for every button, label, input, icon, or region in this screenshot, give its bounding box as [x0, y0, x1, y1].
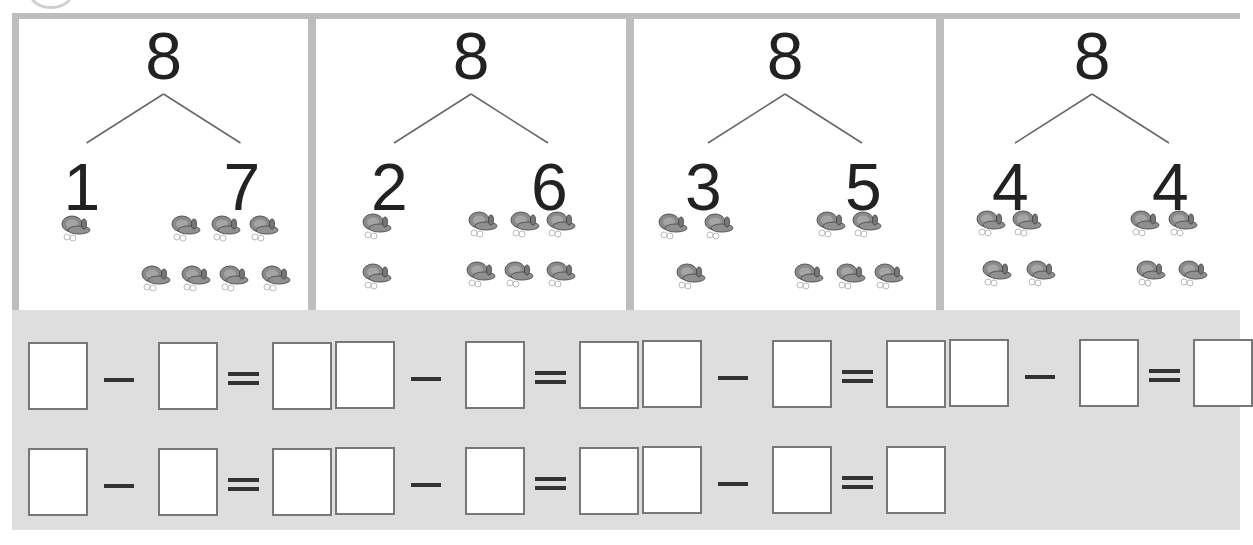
butterfly-icon	[508, 209, 542, 239]
answer-box[interactable]	[158, 342, 218, 410]
answer-box[interactable]	[886, 340, 946, 408]
minus-sign	[104, 378, 134, 382]
equation-area	[12, 310, 1240, 530]
butterfly-icon	[217, 263, 251, 293]
butterfly-icon	[656, 211, 690, 241]
minus-sign	[718, 376, 748, 380]
answer-box[interactable]	[1193, 339, 1253, 407]
answer-box[interactable]	[158, 448, 218, 516]
butterfly-icon	[169, 213, 203, 243]
answer-box[interactable]	[335, 447, 395, 515]
butterfly-icon	[179, 263, 213, 293]
answer-box[interactable]	[465, 341, 525, 409]
left-part-number: 1	[64, 154, 101, 220]
corner-decoration	[30, 0, 72, 9]
equals-sign	[228, 372, 259, 385]
answer-box[interactable]	[28, 448, 88, 516]
butterfly-icon	[814, 209, 848, 239]
butterfly-icon	[792, 261, 826, 291]
equals-sign	[842, 370, 873, 383]
minus-sign	[411, 483, 441, 487]
butterfly-icon	[1010, 208, 1044, 238]
number-bond-panel: 817	[19, 19, 308, 310]
number-bond-panels: 817826835844	[12, 13, 1240, 310]
butterfly-icon	[360, 211, 394, 241]
equals-sign	[842, 476, 873, 489]
butterfly-icon	[850, 209, 884, 239]
answer-box[interactable]	[1079, 339, 1139, 407]
butterfly-icon	[1166, 208, 1200, 238]
butterfly-icon	[59, 213, 93, 243]
answer-box[interactable]	[28, 342, 88, 410]
butterfly-icon	[1134, 258, 1168, 288]
butterfly-icon	[139, 263, 173, 293]
answer-box[interactable]	[272, 342, 332, 410]
butterfly-icon	[247, 213, 281, 243]
butterfly-icon	[1128, 208, 1162, 238]
number-bond-panel: 835	[634, 19, 936, 310]
equals-sign	[228, 478, 259, 491]
butterfly-icon	[674, 261, 708, 291]
answer-box[interactable]	[886, 446, 946, 514]
answer-box[interactable]	[272, 448, 332, 516]
number-bond-panel: 844	[944, 19, 1240, 310]
minus-sign	[718, 482, 748, 486]
butterfly-icon	[259, 263, 293, 293]
bond-lines	[19, 19, 308, 159]
butterfly-icon	[464, 259, 498, 289]
butterfly-icon	[544, 259, 578, 289]
bond-lines	[944, 19, 1240, 159]
bond-lines	[316, 19, 626, 159]
butterfly-icon	[209, 213, 243, 243]
butterfly-icon	[1176, 258, 1210, 288]
answer-box[interactable]	[949, 339, 1009, 407]
right-part-number: 7	[224, 154, 261, 220]
answer-box[interactable]	[772, 340, 832, 408]
butterfly-icon	[466, 209, 500, 239]
butterfly-icon	[544, 209, 578, 239]
answer-box[interactable]	[579, 447, 639, 515]
minus-sign	[411, 377, 441, 381]
butterfly-icon	[980, 258, 1014, 288]
butterfly-icon	[872, 261, 906, 291]
number-bond-panel: 826	[316, 19, 626, 310]
butterfly-icon	[502, 259, 536, 289]
equals-sign	[535, 477, 566, 490]
equals-sign	[535, 371, 566, 384]
answer-box[interactable]	[335, 341, 395, 409]
bond-lines	[634, 19, 936, 159]
answer-box[interactable]	[642, 446, 702, 514]
answer-box[interactable]	[642, 340, 702, 408]
answer-box[interactable]	[465, 447, 525, 515]
butterfly-icon	[360, 261, 394, 291]
butterfly-icon	[1024, 258, 1058, 288]
minus-sign	[1025, 375, 1055, 379]
butterfly-icon	[974, 208, 1008, 238]
butterfly-icon	[702, 211, 736, 241]
answer-box[interactable]	[579, 341, 639, 409]
butterfly-icon	[834, 261, 868, 291]
equals-sign	[1149, 369, 1180, 382]
minus-sign	[104, 484, 134, 488]
answer-box[interactable]	[772, 446, 832, 514]
